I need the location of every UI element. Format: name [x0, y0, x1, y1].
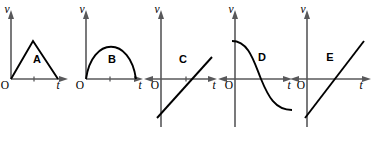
- panel-e-origin-label: O: [297, 79, 305, 91]
- panel-a-label: A: [33, 53, 41, 65]
- panel-e: v t O E: [290, 3, 371, 127]
- panel-b: v t O B: [76, 3, 143, 91]
- panel-c-v-axis-label: v: [154, 3, 160, 15]
- panel-e-v-axis-label: v: [300, 3, 306, 15]
- panel-c-curve: [157, 57, 212, 118]
- panel-b-t-axis-label: t: [138, 79, 142, 91]
- panel-b-v-axis-label: v: [79, 3, 85, 15]
- panel-e-label: E: [326, 51, 333, 63]
- panel-e-t-axis-arrowhead: [362, 76, 371, 82]
- panel-d-v-axis-label: v: [228, 3, 234, 15]
- panel-c-label: C: [179, 53, 187, 65]
- panel-b-origin-label: O: [76, 79, 84, 91]
- panel-c-origin-label: O: [151, 79, 159, 91]
- panel-d-origin-label: O: [225, 79, 233, 91]
- panel-b-label: B: [108, 53, 116, 65]
- panel-a-t-axis-arrowhead: [59, 76, 68, 82]
- panel-c-t-axis-label: t: [212, 79, 216, 91]
- panel-a: v t O A: [1, 3, 68, 91]
- panel-d-label: D: [258, 51, 266, 63]
- panel-a-origin-label: O: [1, 79, 9, 91]
- panel-c: v t O C: [144, 3, 217, 127]
- panel-d: v t O D: [218, 3, 292, 127]
- panel-a-v-axis-label: v: [4, 3, 10, 15]
- panel-d-t-axis-label: t: [287, 79, 291, 91]
- velocity-time-graph-figure: v t O A v t O B: [0, 0, 374, 141]
